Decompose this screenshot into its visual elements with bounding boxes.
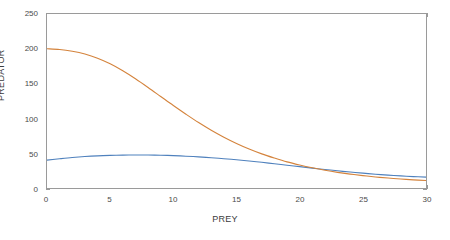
x-tick-label: 5 [107, 195, 111, 204]
x-tick-label: 0 [44, 195, 48, 204]
y-tick-mark-right [423, 189, 427, 190]
y-tick-label: 250 [6, 9, 38, 18]
y-tick-label: 50 [6, 149, 38, 158]
curves-svg [47, 14, 426, 188]
x-tick-label: 25 [359, 195, 368, 204]
x-tick-label: 10 [169, 195, 178, 204]
plot-area [46, 13, 427, 189]
y-tick-label: 200 [6, 44, 38, 53]
x-tick-label: 30 [423, 195, 432, 204]
y-tick-label: 150 [6, 79, 38, 88]
y-tick-mark [46, 189, 50, 190]
y-axis-label: PREDATOR [0, 49, 6, 101]
x-tick-label: 20 [296, 195, 305, 204]
x-tick-label: 15 [232, 195, 241, 204]
x-axis-label: PREY [0, 214, 450, 224]
series-line-prey-nullcline [47, 155, 426, 177]
y-tick-label: 0 [6, 185, 38, 194]
x-tick-mark-top [427, 13, 428, 17]
chart-figure: PREDATOR 050100150200250 051015202530 PR… [0, 0, 450, 240]
x-tick-mark [427, 185, 428, 189]
series-line-predator-nullcline [47, 49, 426, 181]
y-tick-label: 100 [6, 114, 38, 123]
